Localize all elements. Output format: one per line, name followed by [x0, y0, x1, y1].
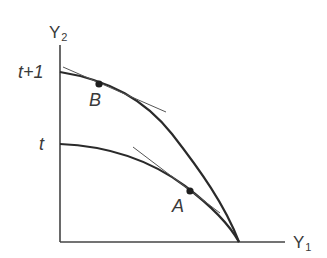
point-a-marker [186, 187, 193, 194]
x-axis-label-subscript: 1 [305, 241, 311, 253]
y-axis-label: Y2 [49, 24, 67, 43]
outer-frontier-curve [60, 72, 239, 242]
y-tick-label-t: t [39, 135, 44, 153]
inner-frontier-curve [60, 144, 239, 242]
point-b-label: B [89, 91, 101, 109]
y-axis-label-text: Y [49, 23, 60, 42]
x-axis-label-text: Y [293, 233, 304, 252]
point-a-label: A [172, 197, 184, 215]
x-axis-label: Y1 [293, 234, 311, 253]
y-tick-label-t-plus-1: t+1 [18, 63, 44, 81]
point-b-marker [95, 80, 102, 87]
tangent-line-b [63, 67, 166, 112]
y-axis-label-subscript: 2 [61, 31, 67, 43]
